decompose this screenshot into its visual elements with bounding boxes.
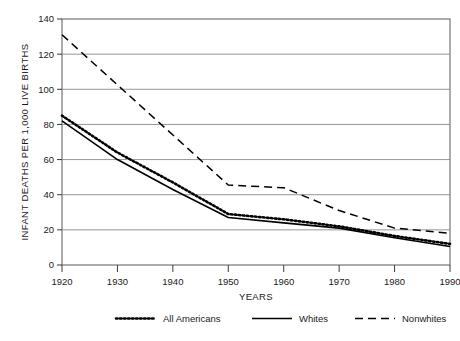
y-tick-label: 0 bbox=[49, 259, 54, 270]
x-tick-label: 1930 bbox=[107, 276, 128, 287]
x-tick-label: 1920 bbox=[51, 276, 72, 287]
y-tick-label: 120 bbox=[38, 49, 54, 60]
y-tick-label: 40 bbox=[43, 189, 54, 200]
chart-svg: 020406080100120140 192019301940195019601… bbox=[0, 0, 460, 341]
x-tick-label: 1970 bbox=[329, 276, 350, 287]
x-tick-label: 1990 bbox=[439, 276, 460, 287]
x-tick-label: 1980 bbox=[384, 276, 405, 287]
x-axis-title: YEARS bbox=[239, 291, 273, 302]
y-tick-label: 80 bbox=[43, 119, 54, 130]
y-tick-label: 100 bbox=[38, 84, 54, 95]
infant-mortality-line-chart: 020406080100120140 192019301940195019601… bbox=[0, 0, 460, 341]
y-tick-label: 140 bbox=[38, 13, 54, 24]
legend-label: All Americans bbox=[163, 313, 221, 324]
y-axis-title: INFANT DEATHS PER 1,000 LIVE BIRTHS bbox=[19, 43, 30, 240]
legend-label: Whites bbox=[299, 313, 328, 324]
x-tick-label: 1960 bbox=[273, 276, 294, 287]
x-tick-label: 1950 bbox=[218, 276, 239, 287]
y-tick-label: 60 bbox=[43, 154, 54, 165]
x-tick-label: 1940 bbox=[162, 276, 183, 287]
chart-background bbox=[0, 0, 460, 341]
legend-label: Nonwhites bbox=[402, 313, 447, 324]
y-tick-label: 20 bbox=[43, 224, 54, 235]
